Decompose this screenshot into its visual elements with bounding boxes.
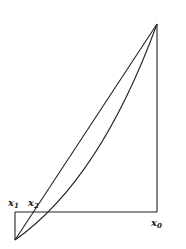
- secant-method-diagram: x1 x2 x0: [0, 0, 186, 249]
- label-x0: x0: [150, 217, 162, 230]
- label-x1: x1: [7, 197, 19, 210]
- label-x2: x2: [27, 197, 39, 210]
